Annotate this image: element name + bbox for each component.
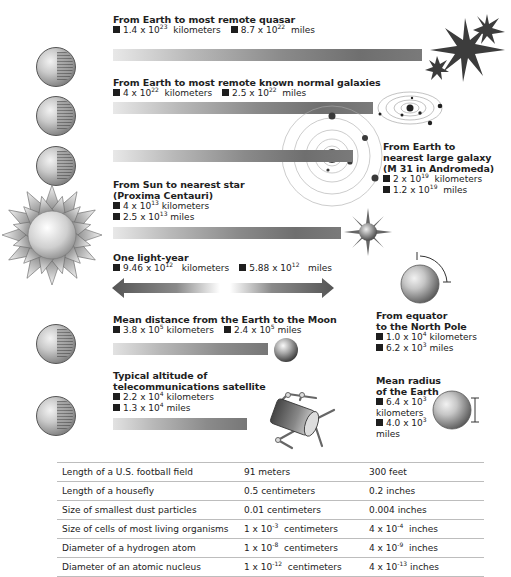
andromeda-distance-bar	[113, 150, 353, 162]
moon-distance-bar	[113, 343, 268, 355]
bullet-square	[113, 393, 120, 400]
light-year-values: 9.46 x 1012 kilometers5.88 x 1012 miles	[113, 263, 332, 274]
andromeda-values: 2 x 1019 kilometers 1.2 x 1019 miles	[383, 174, 482, 196]
quasar-title: From Earth to most remote quasar	[113, 14, 295, 25]
table-cell-imperial: 4 x 10-13 inches	[364, 558, 484, 577]
table-cell-imperial: 4 x 10-4 inches	[364, 520, 484, 539]
small-scale-table: Length of a U.S. football field 91 meter…	[57, 462, 484, 577]
moon-title: Mean distance from the Earth to the Moon	[113, 314, 337, 325]
bullet-square	[113, 404, 120, 411]
quasar-star-icon	[425, 10, 511, 82]
earth-globe-icon	[36, 146, 76, 186]
table-row: Size of smallest dust particles 0.01 cen…	[57, 501, 484, 520]
equator-pole-title: From equator to the North Pole	[376, 310, 467, 332]
table-cell-item: Diameter of a hydrogen atom	[57, 539, 239, 558]
moon-values: 3.8 x 105 kilometers2.4 x 105 miles	[113, 325, 302, 336]
moon-icon	[273, 337, 299, 363]
table-row: Length of a housefly 0.5 centimeters 0.2…	[57, 482, 484, 501]
table-cell-imperial: 4 x 10-9 inches	[364, 539, 484, 558]
proxima-title: From Sun to nearest star (Proxima Centau…	[113, 179, 245, 201]
earth-globe-icon	[36, 96, 76, 136]
bullet-square	[383, 175, 390, 182]
double-arrow-icon	[112, 278, 334, 298]
table-row: Size of cells of most living organisms 1…	[57, 520, 484, 539]
satellite-values: 2.2 x 104 kilometers 1.3 x 104 miles	[113, 392, 214, 414]
bullet-square	[376, 398, 383, 405]
bullet-square	[383, 186, 390, 193]
table-cell-metric: 0.5 centimeters	[239, 482, 364, 501]
bullet-square	[376, 344, 383, 351]
table-cell-item: Size of cells of most living organisms	[57, 520, 239, 539]
bullet-square	[113, 89, 120, 96]
table-cell-metric: 91 meters	[239, 463, 364, 482]
table-row: Diameter of an atomic nucleus 1 x 10-12 …	[57, 558, 484, 577]
table-cell-metric: 1 x 10-12 centimeters	[239, 558, 364, 577]
quasar-distance-bar	[113, 49, 422, 61]
andromeda-title: From Earth to nearest large galaxy (M 31…	[383, 141, 494, 174]
bullet-square	[222, 89, 229, 96]
earth-rotation-globe-icon	[396, 250, 456, 310]
bullet-square	[376, 419, 383, 426]
table-cell-imperial: 0.004 inches	[364, 501, 484, 520]
bullet-square	[113, 202, 120, 209]
bullet-square	[113, 264, 120, 271]
bullet-square	[224, 326, 231, 333]
table-cell-item: Size of smallest dust particles	[57, 501, 239, 520]
bullet-square	[231, 26, 238, 33]
earth-radius-globe-icon	[432, 384, 482, 436]
table-cell-metric: 1 x 10-3 centimeters	[239, 520, 364, 539]
earth-radius-values: 6.4 x 103 kilometers 4.0 x 103 miles	[376, 397, 427, 439]
satellite-title: Typical altitude of telecommunications s…	[113, 370, 266, 392]
table-row: Diameter of a hydrogen atom 1 x 10-8 cen…	[57, 539, 484, 558]
satellite-distance-bar	[113, 418, 247, 430]
star-icon	[344, 208, 392, 256]
bullet-square	[113, 26, 120, 33]
table-cell-imperial: 300 feet	[364, 463, 484, 482]
table-cell-item: Diameter of an atomic nucleus	[57, 558, 239, 577]
table-cell-imperial: 0.2 inches	[364, 482, 484, 501]
quasar-values: 1.4 x 1023 kilometers8.7 x 1022 miles	[113, 25, 315, 36]
bullet-square	[376, 333, 383, 340]
bullet-square	[113, 213, 120, 220]
bullet-square	[113, 326, 120, 333]
light-year-title: One light-year	[113, 252, 188, 263]
proxima-distance-bar	[113, 227, 341, 239]
table-cell-metric: 0.01 centimeters	[239, 501, 364, 520]
table-cell-item: Length of a U.S. football field	[57, 463, 239, 482]
bullet-square	[239, 264, 246, 271]
galaxies-values: 4 x 1022 kilometers2.5 x 1022 miles	[113, 88, 306, 99]
table-row: Length of a U.S. football field 91 meter…	[57, 463, 484, 482]
sun-icon	[0, 183, 104, 287]
earth-globe-icon	[36, 396, 76, 436]
earth-globe-icon	[36, 324, 76, 364]
equator-pole-values: 1.0 x 104 kilometers 6.2 x 103 miles	[376, 332, 477, 354]
proxima-values: 4 x 1013 kilometers 2.5 x 1013 miles	[113, 201, 209, 223]
earth-globe-icon	[36, 47, 76, 87]
table-cell-item: Length of a housefly	[57, 482, 239, 501]
table-cell-metric: 1 x 10-8 centimeters	[239, 539, 364, 558]
satellite-icon	[258, 390, 336, 450]
